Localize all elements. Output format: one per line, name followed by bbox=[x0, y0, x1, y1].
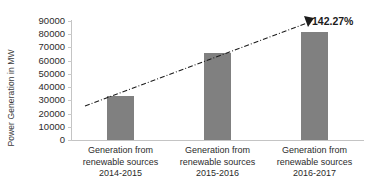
category-label-line: renewable sources bbox=[266, 157, 363, 169]
y-axis-tick-labels: 0100002000030000400005000060000700008000… bbox=[24, 14, 68, 147]
y-axis-tick-label: 20000 bbox=[39, 107, 65, 121]
y-axis-tick-label: 70000 bbox=[39, 40, 65, 54]
y-axis-tick-label: 0 bbox=[60, 133, 65, 147]
y-axis-tick-mark bbox=[68, 100, 72, 101]
x-axis-category-label: Generation fromrenewable sources2014-201… bbox=[72, 145, 169, 180]
bar-chart: Power Generation in MW 01000020000300004… bbox=[0, 0, 369, 196]
category-label-line: Generation from bbox=[169, 145, 266, 157]
x-axis-category-label: Generation fromrenewable sources2015-201… bbox=[169, 145, 266, 180]
y-axis-tick-mark bbox=[68, 47, 72, 48]
y-axis-tick-mark bbox=[68, 21, 72, 22]
category-label-line: Generation from bbox=[266, 145, 363, 157]
y-axis-tick-mark bbox=[68, 74, 72, 75]
y-axis-tick-mark bbox=[68, 87, 72, 88]
y-axis-tick-label: 80000 bbox=[39, 27, 65, 41]
bar bbox=[107, 96, 134, 140]
category-label-line: renewable sources bbox=[72, 157, 169, 169]
x-axis-line bbox=[71, 140, 364, 141]
x-axis-category-label: Generation fromrenewable sources2016-201… bbox=[266, 145, 363, 180]
category-label-line: 2015-2016 bbox=[169, 168, 266, 180]
y-axis-tick-label: 10000 bbox=[39, 120, 65, 134]
plot-area bbox=[72, 21, 363, 140]
y-axis-tick-mark bbox=[68, 114, 72, 115]
y-axis-title: Power Generation in MW bbox=[0, 0, 22, 196]
growth-percentage-label: 142.27% bbox=[312, 15, 353, 27]
bar bbox=[204, 53, 231, 140]
y-axis-tick-mark bbox=[68, 61, 72, 62]
category-label-line: renewable sources bbox=[169, 157, 266, 169]
category-label-line: 2014-2015 bbox=[72, 168, 169, 180]
bar bbox=[301, 32, 328, 140]
x-axis-category-labels: Generation fromrenewable sources2014-201… bbox=[72, 145, 363, 193]
y-axis-tick-mark bbox=[68, 140, 72, 141]
y-axis-tick-label: 90000 bbox=[39, 14, 65, 28]
y-axis-tick-label: 30000 bbox=[39, 93, 65, 107]
category-label-line: 2016-2017 bbox=[266, 168, 363, 180]
y-axis-tick-label: 60000 bbox=[39, 54, 65, 68]
y-axis-tick-label: 40000 bbox=[39, 80, 65, 94]
category-label-line: Generation from bbox=[72, 145, 169, 157]
y-axis-tick-mark bbox=[68, 127, 72, 128]
y-axis-tick-mark bbox=[68, 34, 72, 35]
y-axis-tick-label: 50000 bbox=[39, 67, 65, 81]
